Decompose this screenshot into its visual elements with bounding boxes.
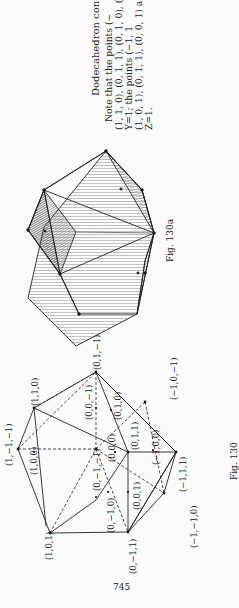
- vertex-label: (0,1,0): [113, 392, 123, 420]
- caption-block: Dodecahedron cont Note that the points (…: [90, 0, 154, 131]
- vertex-label: (1,−1,−1): [4, 423, 14, 466]
- vertex-label: (1,0,1): [44, 532, 54, 560]
- vertex-label: (−1,−1,0): [189, 505, 199, 548]
- vertex-label: (0,0,0): [107, 434, 117, 462]
- page-canvas: Dodecahedron cont Note that the points (…: [0, 0, 239, 608]
- vertex-label: (0,1,−1): [92, 335, 102, 370]
- caption-line-5: Z=1.: [143, 107, 154, 130]
- figure-130a-label: Fig. 130a: [165, 218, 175, 262]
- vertex-label: (0,−1,0): [106, 498, 116, 533]
- vertex-label: (0,1,1): [130, 422, 140, 450]
- vertex-label: (−1,0,0): [151, 430, 161, 465]
- page-number: 745: [113, 582, 130, 592]
- vertex-label: (0,−1,1): [128, 539, 138, 574]
- figure-130-labels: (1,−1,−1) (1,1,0) (0,1,−1) (1,0,0) (1,0,…: [4, 335, 199, 574]
- figure-130a: [27, 150, 156, 346]
- caption-title: Dodecahedron cont: [90, 0, 101, 96]
- vertex-label: (−1,0,−1): [169, 357, 179, 400]
- vertex-label: (1,1,0): [30, 378, 40, 406]
- vertex-label: (1,0,0): [29, 447, 39, 475]
- vertex-label: (0,0,−1): [84, 385, 94, 420]
- vertex-label: (0,0,1): [132, 482, 142, 510]
- vertex-label: (0,−1,−1): [92, 448, 102, 491]
- vertex-label: (−1,1,1): [178, 457, 188, 492]
- figure-130-label: Fig. 130: [229, 442, 239, 480]
